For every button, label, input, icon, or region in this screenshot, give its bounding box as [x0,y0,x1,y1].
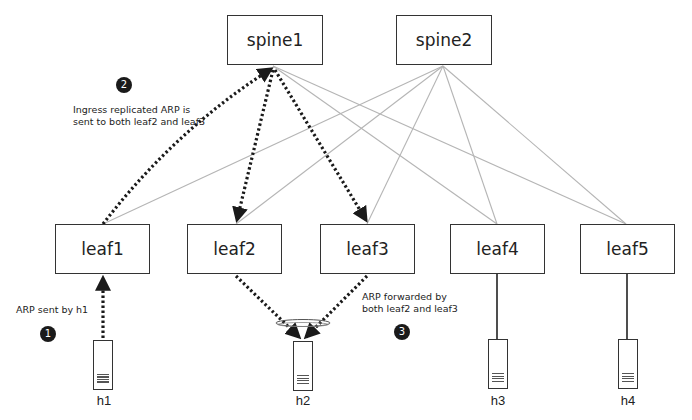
spine2-label: spine2 [416,30,472,50]
step-3-note-line1: ARP forwarded by [362,291,458,303]
step-1-badge: 1 [40,326,56,342]
step-3-badge: 3 [394,324,410,340]
link-spine2-leaf3 [367,66,443,224]
spine1-switch[interactable]: spine1 [227,15,323,65]
server-vents-icon [622,373,634,383]
h2-server-icon[interactable] [293,341,313,391]
host-links [497,274,627,340]
step-2-note: Ingress replicated ARP is sent to both l… [73,104,205,128]
h3-label: h3 [478,393,518,408]
step-2-badge: 2 [116,77,132,93]
arp-leaf3-to-h2 [306,276,367,337]
h3-server-icon[interactable] [488,339,508,389]
leaf3-switch[interactable]: leaf3 [320,224,415,274]
leaf2-label: leaf2 [213,239,255,259]
h1-server-icon[interactable] [93,340,113,390]
step-1-note: ARP sent by h1 [16,304,88,316]
step-3-note-line2: both leaf2 and leaf3 [362,303,458,315]
step-2-note-line1: Ingress replicated ARP is [73,104,205,116]
leaf1-label: leaf1 [81,239,123,259]
step-3-note: ARP forwarded by both leaf2 and leaf3 [362,291,458,315]
arp-leaf2-to-h2 [236,276,299,337]
link-spine1-leaf5 [273,66,626,224]
leaf3-label: leaf3 [346,239,388,259]
server-vents-icon [297,375,309,385]
h2-label: h2 [283,393,323,408]
fabric-links [103,66,626,224]
link-spine1-leaf4 [273,66,497,224]
arp-leaf1-to-spine1 [103,69,271,224]
h4-label: h4 [608,393,648,408]
spine1-label: spine1 [247,30,303,50]
arp-spine1-to-leaf2 [237,70,273,220]
leaf5-switch[interactable]: leaf5 [580,224,675,274]
server-vents-icon [492,373,504,383]
leaf2-switch[interactable]: leaf2 [187,224,282,274]
h1-label: h1 [84,393,124,408]
leaf4-switch[interactable]: leaf4 [450,224,545,274]
link-spine2-leaf1 [103,66,443,224]
step-2-note-line2: sent to both leaf2 and leaf3 [73,116,205,128]
leaf4-label: leaf4 [476,239,518,259]
server-vents-icon [97,374,109,384]
spine2-switch[interactable]: spine2 [396,15,492,65]
h4-server-icon[interactable] [618,339,638,389]
leaf5-label: leaf5 [606,239,648,259]
arp-spine1-to-leaf3 [275,70,366,220]
evpn-arp-flow-diagram: spine1 spine2 leaf1 leaf2 leaf3 leaf4 le… [0,0,692,420]
leaf1-switch[interactable]: leaf1 [55,224,150,274]
